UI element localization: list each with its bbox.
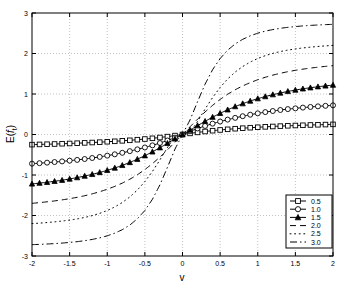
data-marker-circle xyxy=(120,150,125,155)
data-marker-circle xyxy=(97,154,102,159)
x-tick-label: 1.5 xyxy=(291,260,301,267)
legend-label: 1.5 xyxy=(311,214,321,221)
figure-container: -2-1.5-1-0.500.511.52 -3-2-10123 v E(ft)… xyxy=(0,0,343,292)
data-marker-circle xyxy=(52,160,57,165)
data-marker-square xyxy=(248,125,253,130)
legend-marker-circle xyxy=(295,207,300,212)
data-marker-square xyxy=(112,139,117,144)
data-marker-square xyxy=(128,138,133,143)
data-marker-circle xyxy=(293,106,298,111)
line-chart: -2-1.5-1-0.500.511.52 -3-2-10123 v E(ft)… xyxy=(0,0,343,292)
legend-label: 2.0 xyxy=(311,222,321,229)
legend-label: 2.5 xyxy=(311,230,321,237)
y-axis-title-close: ) xyxy=(5,125,16,128)
data-marker-circle xyxy=(45,160,50,165)
data-marker-circle xyxy=(278,107,283,112)
y-tick-label: 3 xyxy=(24,10,28,17)
data-marker-square xyxy=(143,137,148,142)
data-marker-circle xyxy=(218,119,223,124)
data-marker-square xyxy=(120,139,125,144)
x-tick-label: -1 xyxy=(104,260,110,267)
data-marker-circle xyxy=(142,145,147,150)
x-tick-label: 2 xyxy=(331,260,335,267)
y-tick-label: 2 xyxy=(24,50,28,57)
data-marker-square xyxy=(301,123,306,128)
data-marker-circle xyxy=(233,115,238,120)
data-marker-square xyxy=(75,141,80,146)
y-tick-label: -3 xyxy=(22,253,28,260)
data-marker-square xyxy=(203,129,208,134)
data-marker-square xyxy=(158,135,163,140)
data-marker-square xyxy=(316,122,321,127)
x-tick-label: 1 xyxy=(256,260,260,267)
data-marker-circle xyxy=(248,112,253,117)
data-marker-circle xyxy=(285,107,290,112)
data-marker-square xyxy=(218,128,223,133)
data-marker-square xyxy=(233,126,238,131)
x-tick-label: 0 xyxy=(181,260,185,267)
data-marker-circle xyxy=(308,104,313,109)
data-marker-circle xyxy=(255,111,260,116)
data-marker-circle xyxy=(90,155,95,160)
data-marker-square xyxy=(45,142,50,147)
y-tick-label: -2 xyxy=(22,212,28,219)
data-marker-circle xyxy=(315,104,320,109)
data-marker-square xyxy=(52,142,57,147)
y-tick-label: 0 xyxy=(24,131,28,138)
data-marker-square xyxy=(286,123,291,128)
x-tick-label: -2 xyxy=(29,260,35,267)
data-marker-square xyxy=(82,141,87,146)
data-marker-circle xyxy=(323,103,328,108)
data-marker-circle xyxy=(225,117,230,122)
legend-box[interactable] xyxy=(286,195,332,248)
legend-marker-square xyxy=(296,199,301,204)
data-marker-square xyxy=(225,127,230,132)
data-marker-circle xyxy=(127,149,132,154)
data-marker-circle xyxy=(300,105,305,110)
x-tick-label: -1.5 xyxy=(64,260,76,267)
data-marker-square xyxy=(323,122,328,127)
data-marker-square xyxy=(135,137,140,142)
data-marker-square xyxy=(263,125,268,130)
data-marker-circle xyxy=(263,110,268,115)
data-marker-circle xyxy=(60,159,65,164)
y-tick-label: -1 xyxy=(22,172,28,179)
y-axis-title: E(ft) xyxy=(5,125,18,143)
data-marker-square xyxy=(308,123,313,128)
x-tick-labels: -2-1.5-1-0.500.511.52 xyxy=(29,260,335,267)
data-marker-circle xyxy=(150,143,155,148)
data-marker-circle xyxy=(270,109,275,114)
y-tick-label: 1 xyxy=(24,91,28,98)
data-marker-square xyxy=(150,136,155,141)
data-marker-square xyxy=(37,142,42,147)
x-tick-label: 0.5 xyxy=(215,260,225,267)
data-marker-circle xyxy=(37,161,42,166)
data-marker-square xyxy=(255,125,260,130)
data-marker-circle xyxy=(67,158,72,163)
data-marker-circle xyxy=(112,152,117,157)
data-marker-circle xyxy=(210,121,215,126)
data-marker-circle xyxy=(82,157,87,162)
x-tick-label: -0.5 xyxy=(139,260,151,267)
data-marker-square xyxy=(293,123,298,128)
data-marker-circle xyxy=(203,123,208,128)
data-marker-square xyxy=(60,141,65,146)
y-tick-labels: -3-2-10123 xyxy=(22,10,28,260)
legend[interactable]: 0.51.01.52.02.53.0 xyxy=(286,195,332,248)
y-axis-title-text: E(ft) xyxy=(5,125,18,143)
legend-label: 0.5 xyxy=(311,198,321,205)
data-marker-square xyxy=(240,126,245,131)
legend-label: 1.0 xyxy=(311,206,321,213)
data-marker-square xyxy=(67,141,72,146)
data-marker-square xyxy=(278,124,283,129)
data-marker-square xyxy=(271,124,276,129)
data-marker-square xyxy=(90,140,95,145)
data-marker-circle xyxy=(135,147,140,152)
legend-label: 3.0 xyxy=(311,239,321,246)
data-marker-circle xyxy=(105,153,110,158)
data-marker-circle xyxy=(75,157,80,162)
data-marker-circle xyxy=(240,114,245,119)
data-marker-square xyxy=(210,128,215,133)
data-marker-square xyxy=(97,140,102,145)
data-marker-square xyxy=(105,139,110,144)
